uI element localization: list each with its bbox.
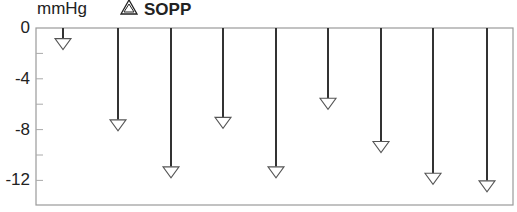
arrow-head-icon	[320, 98, 336, 109]
plot-area	[0, 0, 517, 212]
plot-frame	[36, 28, 513, 205]
arrow-head-icon	[110, 120, 126, 131]
arrow-head-icon	[55, 39, 71, 50]
arrow-head-icon	[268, 167, 284, 178]
arrow-head-icon	[163, 167, 179, 178]
arrow-head-icon	[215, 117, 231, 128]
arrow-head-icon	[425, 173, 441, 184]
arrow-head-icon	[479, 181, 495, 192]
arrow-head-icon	[373, 141, 389, 152]
